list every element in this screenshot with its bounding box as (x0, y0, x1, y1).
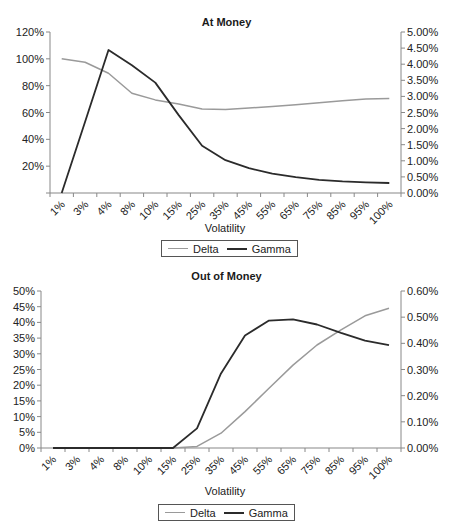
x-tick-label: 10% (137, 198, 161, 222)
y-tick-label: 25% (13, 364, 35, 376)
legend-label-gamma: Gamma (249, 507, 288, 519)
x-tick-label: 75% (300, 198, 324, 222)
x-tick-label: 55% (250, 453, 274, 477)
y2-tick-label: 4.00% (407, 58, 438, 70)
y-tick-label: 60% (22, 107, 44, 119)
x-tick-label: 55% (254, 198, 278, 222)
legend-item-delta: Delta (165, 507, 216, 519)
x-axis-label: Volatility (175, 485, 275, 497)
y-tick-label: 20% (13, 379, 35, 391)
y2-tick-label: 0.50% (407, 311, 438, 323)
legend-label-gamma: Gamma (252, 243, 291, 255)
x-tick-label: 1% (39, 453, 59, 473)
x-tick-label: 35% (202, 453, 226, 477)
y-tick-label: 0% (19, 442, 35, 454)
y2-tick-label: 0.40% (407, 337, 438, 349)
y2-tick-label: 3.50% (407, 74, 438, 86)
x-tick-label: 8% (118, 198, 138, 218)
x-tick-label: 85% (322, 453, 346, 477)
y-tick-label: 50% (13, 285, 35, 297)
x-tick-label: 65% (277, 198, 301, 222)
axes: 0%5%10%15%20%25%30%35%40%45%50%0.00%0.10… (13, 285, 438, 481)
y2-tick-label: 0.30% (407, 364, 438, 376)
x-tick-label: 3% (63, 453, 83, 473)
y-tick-label: 15% (13, 395, 35, 407)
legend-label-delta: Delta (190, 507, 216, 519)
y-tick-label: 100% (16, 53, 44, 65)
x-tick-label: 45% (226, 453, 250, 477)
delta-line-swatch-icon (168, 248, 188, 249)
x-axis-label: Volatility (175, 222, 275, 234)
y2-tick-label: 0.00% (407, 187, 438, 199)
delta-line-swatch-icon (165, 512, 185, 513)
series-line-gamma (53, 319, 389, 448)
legend: Delta Gamma (158, 504, 295, 521)
y-tick-label: 40% (22, 133, 44, 145)
x-tick-label: 65% (274, 453, 298, 477)
x-tick-label: 8% (111, 453, 131, 473)
x-tick-label: 4% (94, 198, 114, 218)
x-tick-label: 15% (154, 453, 178, 477)
x-tick-label: 15% (160, 198, 184, 222)
gamma-line-swatch-icon (227, 248, 247, 250)
y-tick-label: 20% (22, 160, 44, 172)
series-line-delta (62, 59, 390, 110)
x-tick-label: 35% (207, 198, 231, 222)
x-tick-label: 1% (47, 198, 67, 218)
x-tick-label: 100% (366, 198, 395, 227)
y2-tick-label: 2.50% (407, 107, 438, 119)
y2-tick-label: 0.10% (407, 416, 438, 428)
y-tick-label: 40% (13, 316, 35, 328)
y-tick-label: 45% (13, 301, 35, 313)
legend-item-gamma: Gamma (227, 243, 291, 255)
x-tick-label: 3% (71, 198, 91, 218)
chart-out-of-money: Out of Money 0%5%10%15%20%25%30%35%40%45… (0, 264, 453, 528)
y-tick-label: 80% (22, 80, 44, 92)
plot-area: 0%5%10%15%20%25%30%35%40%45%50%0.00%0.10… (0, 264, 453, 494)
y2-tick-label: 0.00% (407, 442, 438, 454)
y-tick-label: 120% (16, 26, 44, 38)
y2-tick-label: 1.00% (407, 155, 438, 167)
y2-tick-label: 5.00% (407, 26, 438, 38)
y2-tick-label: 1.50% (407, 139, 438, 151)
y2-tick-label: 2.00% (407, 123, 438, 135)
axes: 20%40%60%80%100%120%0.00%0.50%1.00%1.50%… (16, 26, 439, 226)
y-tick-label: 10% (13, 411, 35, 423)
y-tick-label: 35% (13, 332, 35, 344)
y-tick-label: 5% (19, 426, 35, 438)
x-tick-label: 4% (87, 453, 107, 473)
legend-item-delta: Delta (168, 243, 219, 255)
x-tick-label: 85% (324, 198, 348, 222)
chart-at-money: At Money 20%40%60%80%100%120%0.00%0.50%1… (0, 0, 453, 264)
x-tick-label: 25% (178, 453, 202, 477)
x-tick-label: 10% (130, 453, 154, 477)
series-line-gamma (62, 50, 390, 193)
y2-tick-label: 0.50% (407, 171, 438, 183)
plot-area: 20%40%60%80%100%120%0.00%0.50%1.00%1.50%… (0, 0, 453, 230)
y2-tick-label: 3.00% (407, 90, 438, 102)
x-tick-label: 75% (298, 453, 322, 477)
x-tick-label: 45% (230, 198, 254, 222)
y2-tick-label: 0.20% (407, 390, 438, 402)
x-tick-label: 25% (183, 198, 207, 222)
series-line-delta (53, 308, 389, 448)
legend: Delta Gamma (161, 240, 298, 257)
legend-label-delta: Delta (193, 243, 219, 255)
y2-tick-label: 0.60% (407, 285, 438, 297)
y2-tick-label: 4.50% (407, 42, 438, 54)
y-tick-label: 30% (13, 348, 35, 360)
legend-item-gamma: Gamma (224, 507, 288, 519)
gamma-line-swatch-icon (224, 512, 244, 514)
x-tick-label: 100% (366, 453, 395, 482)
